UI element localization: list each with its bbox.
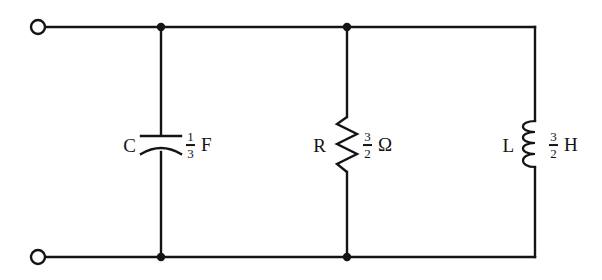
resistor-value-denominator: 2 bbox=[363, 147, 372, 160]
inductor-unit-label: H bbox=[564, 135, 578, 154]
inductor-value-label: 3 2 H bbox=[549, 130, 578, 160]
resistor-unit-label: Ω bbox=[378, 135, 392, 154]
capacitor-unit-label: F bbox=[201, 135, 212, 154]
capacitor-value-fraction: 1 3 bbox=[186, 130, 195, 160]
inductor-value-denominator: 2 bbox=[549, 147, 558, 160]
inductor-symbol-label: L bbox=[502, 136, 516, 155]
capacitor-symbol-label: C bbox=[123, 136, 138, 155]
inductor-value-numerator: 3 bbox=[549, 130, 558, 143]
capacitor-value-label: 1 3 F bbox=[186, 130, 212, 160]
junction-bottom-resistor bbox=[343, 253, 351, 261]
top-terminal[interactable] bbox=[31, 20, 45, 34]
resistor-zigzag-body bbox=[337, 117, 357, 172]
resistor-value-numerator: 3 bbox=[363, 130, 372, 143]
junction-top-capacitor bbox=[157, 23, 165, 31]
resistor-value-label: 3 2 Ω bbox=[363, 130, 392, 160]
resistor-symbol-label: R bbox=[313, 136, 328, 155]
capacitor-value-numerator: 1 bbox=[186, 130, 195, 143]
capacitor-value-denominator: 3 bbox=[186, 147, 195, 160]
junction-top-resistor bbox=[343, 23, 351, 31]
bottom-terminal[interactable] bbox=[31, 250, 45, 264]
inductor-coil-body bbox=[523, 121, 535, 167]
inductor-value-fraction: 3 2 bbox=[549, 130, 558, 160]
circuit-diagram-figure: C 1 3 F R 3 2 Ω L 3 2 H bbox=[0, 0, 602, 280]
resistor-value-fraction: 3 2 bbox=[363, 130, 372, 160]
junction-bottom-capacitor bbox=[157, 253, 165, 261]
